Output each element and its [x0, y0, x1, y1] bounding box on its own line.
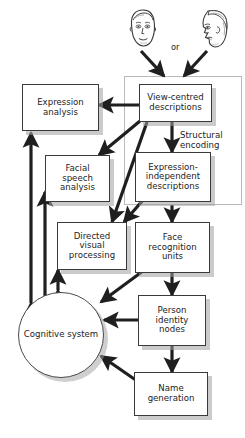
node-cognitive-system-line2: system: [67, 329, 98, 339]
node-directed-visual-line3: processing: [60, 251, 124, 261]
face-recognition-model-diagram: Structural encoding: [0, 0, 245, 438]
node-person-identity-nodes[interactable]: Person identity nodes: [138, 295, 206, 346]
edge-view-centred-to-facial-speech: [99, 121, 140, 155]
node-face-recognition-units[interactable]: Face recognition units: [135, 222, 210, 273]
node-cognitive-system-line1: Cognitive: [24, 329, 65, 339]
frontal-face-icon: [126, 8, 160, 54]
structural-encoding-label: Structural encoding: [180, 131, 240, 150]
node-expression-independent-descriptions[interactable]: Expression- independent descriptions: [135, 152, 211, 202]
arrow-layer: [0, 0, 245, 438]
node-person-identity-line3: nodes: [141, 325, 203, 335]
node-directed-visual-processing[interactable]: Directed visual processing: [57, 222, 127, 270]
node-cognitive-system[interactable]: Cognitive system: [18, 292, 104, 378]
node-facial-speech-analysis[interactable]: Facial speech analysis: [45, 155, 110, 202]
edge-face-recognition-to-cognitive-system: [101, 271, 143, 302]
edge-profile-face-to-view-centred: [184, 51, 207, 76]
node-view-centred-descriptions-line2: descriptions: [142, 103, 209, 113]
edge-frontal-face-to-view-centred: [141, 51, 164, 76]
node-facial-speech-analysis-line3: analysis: [48, 183, 107, 193]
node-name-generation[interactable]: Name generation: [134, 372, 208, 416]
structural-encoding-label-line2: encoding: [180, 141, 240, 151]
or-label: or: [171, 42, 180, 52]
node-expression-analysis[interactable]: Expression analysis: [22, 84, 99, 131]
node-expression-analysis-line2: analysis: [25, 108, 96, 118]
profile-face-icon: [196, 8, 232, 54]
node-name-generation-line2: generation: [137, 394, 205, 404]
node-view-centred-descriptions[interactable]: View-centred descriptions: [139, 84, 212, 122]
node-expression-independent-line3: descriptions: [138, 182, 208, 192]
node-face-recognition-line3: units: [138, 252, 207, 262]
